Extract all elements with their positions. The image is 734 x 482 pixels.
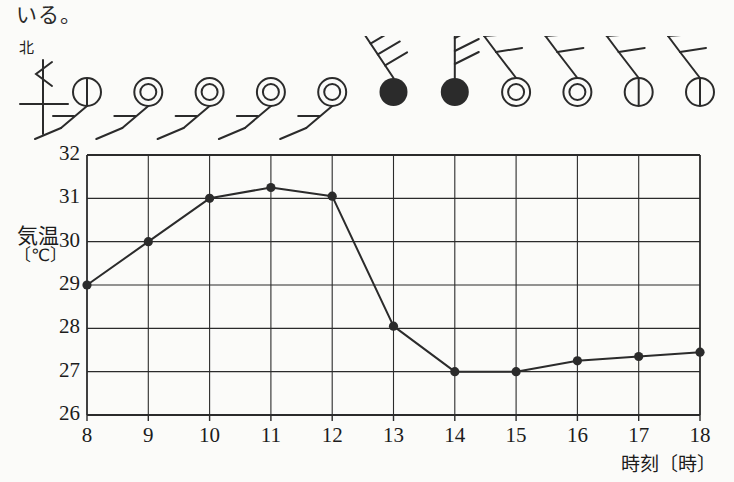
wind-barb-icon bbox=[35, 128, 61, 139]
weather-symbol-10 bbox=[158, 78, 224, 139]
data-point-marker bbox=[328, 192, 337, 201]
x-tick-label: 11 bbox=[251, 423, 291, 448]
weather-symbol-15 bbox=[484, 36, 530, 106]
wind-shaft-icon bbox=[619, 52, 639, 78]
weather-symbol-13 bbox=[366, 36, 408, 106]
wind-shaft-upper-icon bbox=[607, 36, 619, 52]
wind-shaft-icon bbox=[366, 36, 394, 78]
weather-symbol-17 bbox=[607, 36, 653, 106]
rain-symbol-icon bbox=[380, 78, 408, 106]
y-tick-label: 32 bbox=[46, 141, 80, 166]
worksheet-page: いる。 北 気温 〔℃〕 32313029282726 891011121314… bbox=[0, 0, 734, 482]
data-point-marker bbox=[511, 367, 520, 376]
wind-barb-icon bbox=[557, 48, 583, 52]
x-tick-label: 10 bbox=[190, 423, 230, 448]
weather-symbol-11 bbox=[219, 78, 285, 139]
cloudy-symbol-icon bbox=[318, 78, 346, 106]
cloudy-symbol-icon bbox=[196, 78, 224, 106]
x-tick-label: 18 bbox=[680, 423, 720, 448]
weather-symbol-row bbox=[0, 36, 734, 146]
x-tick-label: 14 bbox=[435, 423, 475, 448]
y-tick-label: 30 bbox=[46, 228, 80, 253]
wind-barb-icon bbox=[680, 48, 706, 52]
data-point-marker bbox=[82, 280, 91, 289]
y-tick-label: 28 bbox=[46, 314, 80, 339]
data-point-marker bbox=[144, 237, 153, 246]
wind-barb-icon bbox=[96, 128, 122, 139]
weather-symbol-12 bbox=[280, 78, 346, 139]
wind-barb-icon bbox=[280, 128, 306, 139]
weather-symbol-18 bbox=[668, 36, 714, 106]
wind-shaft-icon bbox=[680, 52, 700, 78]
weather-symbol-14 bbox=[441, 36, 479, 106]
weather-symbol-9 bbox=[96, 78, 162, 139]
wind-barb-icon bbox=[371, 36, 393, 44]
weather-symbol-16 bbox=[545, 36, 591, 106]
data-point-marker bbox=[573, 356, 582, 365]
x-tick-label: 15 bbox=[496, 423, 536, 448]
x-tick-label: 9 bbox=[128, 423, 168, 448]
cloudy-symbol-icon bbox=[134, 78, 162, 106]
wind-shaft-icon bbox=[557, 52, 577, 78]
wind-barb-icon bbox=[619, 48, 645, 52]
wind-barb-icon bbox=[496, 48, 522, 52]
wind-shaft-upper-icon bbox=[668, 36, 680, 52]
wind-barb-icon bbox=[158, 128, 184, 139]
data-point-marker bbox=[389, 322, 398, 331]
x-tick-label: 8 bbox=[67, 423, 107, 448]
rain-symbol-icon bbox=[441, 78, 469, 106]
x-tick-label: 13 bbox=[374, 423, 414, 448]
x-tick-label: 12 bbox=[312, 423, 352, 448]
cloudy-symbol-icon bbox=[502, 78, 530, 106]
wind-barb-icon bbox=[219, 128, 245, 139]
y-tick-label: 31 bbox=[46, 184, 80, 209]
wind-barb-icon bbox=[385, 52, 407, 65]
wind-shaft-icon bbox=[496, 52, 516, 78]
data-point-marker bbox=[266, 183, 275, 192]
wind-barb-icon bbox=[455, 36, 479, 38]
cloudy-symbol-icon bbox=[257, 78, 285, 106]
data-point-marker bbox=[450, 367, 459, 376]
data-point-marker bbox=[695, 348, 704, 357]
weather-symbol-8 bbox=[35, 78, 101, 139]
wind-shaft-upper-icon bbox=[484, 36, 496, 52]
wind-barb-icon bbox=[378, 41, 400, 54]
page-top-text: いる。 bbox=[16, 0, 82, 28]
wind-shaft-upper-icon bbox=[545, 36, 557, 52]
data-point-marker bbox=[634, 352, 643, 361]
x-tick-label: 17 bbox=[619, 423, 659, 448]
temperature-line-chart bbox=[0, 145, 734, 435]
y-tick-label: 27 bbox=[46, 358, 80, 383]
y-tick-label: 29 bbox=[46, 271, 80, 296]
wind-barb-icon bbox=[455, 39, 479, 51]
x-axis-label: 時刻〔時〕 bbox=[621, 449, 716, 476]
wind-barb-icon bbox=[455, 52, 479, 64]
data-point-marker bbox=[205, 194, 214, 203]
x-tick-label: 16 bbox=[557, 423, 597, 448]
cloudy-symbol-icon bbox=[563, 78, 591, 106]
